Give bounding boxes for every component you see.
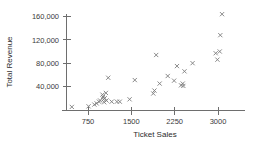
- scatter-plot-figure: 40,00080,000120,000160,000 7501500225030…: [0, 0, 253, 157]
- data-point-marker: [190, 61, 194, 65]
- data-point-marker: [215, 58, 219, 62]
- y-tick-group: 40,00080,000120,000160,000: [32, 12, 71, 91]
- y-tick-label: 40,000: [36, 82, 59, 91]
- data-point-marker: [106, 76, 110, 80]
- data-point-marker: [133, 78, 137, 82]
- data-point-marker: [118, 100, 122, 104]
- x-axis-title: Ticket Sales: [133, 130, 176, 139]
- data-point-marker: [128, 97, 132, 101]
- axes-group: [62, 14, 245, 111]
- plot-canvas: 40,00080,000120,000160,000 7501500225030…: [0, 0, 253, 157]
- chart-svg: 40,00080,000120,000160,000 7501500225030…: [0, 0, 253, 157]
- data-point-marker: [175, 64, 179, 68]
- data-point-marker: [172, 79, 176, 83]
- x-tick-label: 750: [82, 117, 95, 126]
- data-point-marker: [166, 74, 170, 78]
- data-point-marker: [218, 49, 222, 53]
- data-point-marker: [110, 100, 114, 104]
- y-axis-title: Total Revenue: [5, 36, 14, 88]
- data-point-marker: [154, 53, 158, 57]
- x-tick-label: 3000: [210, 117, 227, 126]
- data-point-marker: [220, 12, 224, 16]
- data-point-marker: [214, 51, 218, 55]
- y-tick-label: 120,000: [32, 36, 59, 45]
- data-points-layer: [70, 12, 224, 109]
- y-tick-label: 160,000: [32, 12, 59, 21]
- x-tick-label: 2250: [166, 117, 183, 126]
- x-tick-group: 750150022503000: [82, 107, 227, 127]
- data-point-marker: [158, 81, 162, 85]
- x-tick-label: 1500: [123, 117, 140, 126]
- y-tick-label: 80,000: [36, 59, 59, 68]
- data-point-marker: [86, 104, 90, 108]
- data-point-marker: [218, 33, 222, 37]
- data-point-marker: [182, 69, 186, 73]
- data-point-marker: [70, 105, 74, 109]
